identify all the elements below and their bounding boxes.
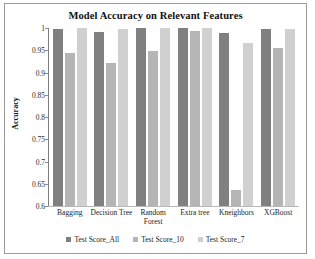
- legend-item[interactable]: Test Score_7: [198, 235, 245, 244]
- bar[interactable]: [190, 31, 200, 206]
- bar[interactable]: [219, 33, 229, 206]
- bar[interactable]: [202, 28, 212, 206]
- x-axis-category-label: Bagging: [47, 208, 93, 217]
- y-axis-tick-label: 0.6: [9, 202, 45, 211]
- bar-group: Extra tree: [174, 28, 216, 206]
- legend-swatch-icon: [66, 237, 71, 242]
- legend-item[interactable]: Test Score_All: [66, 235, 119, 244]
- y-axis-tick-label: 0.95: [9, 46, 45, 55]
- bar-group: Kneighbors: [216, 28, 258, 206]
- chart-title: Model Accuracy on Relevant Features: [5, 10, 306, 21]
- y-axis-tick-label: 0.7: [9, 157, 45, 166]
- y-axis-tick-label: 0.85: [9, 90, 45, 99]
- bar[interactable]: [148, 51, 158, 206]
- legend-item[interactable]: Test Score_10: [133, 235, 184, 244]
- bar-group: Random Forest: [132, 28, 174, 206]
- x-axis-category-label: XGBoost: [255, 208, 301, 217]
- bar[interactable]: [285, 29, 295, 206]
- bar-group-bars: [49, 28, 91, 206]
- bar-group: Bagging: [49, 28, 91, 206]
- bar[interactable]: [136, 28, 146, 206]
- y-axis-tick-label: 1: [9, 24, 45, 33]
- bar-group: Decision Tree: [91, 28, 133, 206]
- bar[interactable]: [160, 28, 170, 206]
- chart-figure: Model Accuracy on Relevant Features Accu…: [4, 3, 307, 254]
- bar[interactable]: [65, 53, 75, 206]
- bar[interactable]: [106, 63, 116, 206]
- y-axis-tick-label: 0.75: [9, 135, 45, 144]
- chart-legend: Test Score_AllTest Score_10Test Score_7: [5, 235, 306, 244]
- plot-area: BaggingDecision TreeRandom ForestExtra t…: [49, 28, 299, 206]
- y-axis-tick-label: 0.65: [9, 179, 45, 188]
- bar[interactable]: [178, 28, 188, 206]
- bar[interactable]: [273, 48, 283, 206]
- y-axis-tick-label: 0.8: [9, 113, 45, 122]
- y-axis-ticks: 0.60.650.70.750.80.850.90.951: [5, 28, 45, 206]
- y-axis-tick-label: 0.9: [9, 68, 45, 77]
- bar[interactable]: [94, 32, 104, 206]
- bar[interactable]: [118, 29, 128, 206]
- bar-group-bars: [216, 28, 258, 206]
- bar-group-bars: [91, 28, 133, 206]
- bar[interactable]: [243, 43, 253, 206]
- bar-group: XGBoost: [257, 28, 299, 206]
- x-axis-line: [48, 206, 299, 207]
- bar[interactable]: [261, 29, 271, 206]
- bar[interactable]: [231, 190, 241, 206]
- x-axis-category-label: Decision Tree: [88, 208, 134, 217]
- bar-group-bars: [132, 28, 174, 206]
- legend-swatch-icon: [198, 237, 203, 242]
- x-axis-category-label: Extra tree: [172, 208, 218, 217]
- bar[interactable]: [53, 29, 63, 206]
- bar-group-bars: [174, 28, 216, 206]
- legend-label: Test Score_All: [74, 235, 119, 244]
- x-axis-category-label: Kneighbors: [213, 208, 259, 217]
- x-axis-category-label: Random Forest: [130, 208, 176, 226]
- legend-label: Test Score_10: [141, 235, 184, 244]
- legend-label: Test Score_7: [206, 235, 245, 244]
- bar[interactable]: [77, 28, 87, 206]
- bar-group-bars: [257, 28, 299, 206]
- legend-swatch-icon: [133, 237, 138, 242]
